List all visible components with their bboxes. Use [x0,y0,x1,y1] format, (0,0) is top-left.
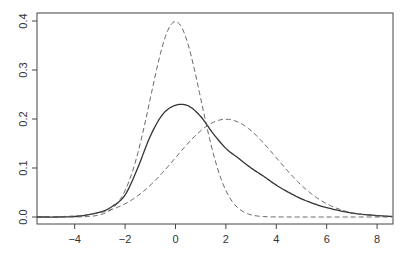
x-tick-label: −4 [68,233,81,245]
y-tick-label: 0.2 [17,111,29,126]
x-axis: −4−202468 [68,224,380,245]
curve-dashed-normal-1 [37,22,392,217]
y-tick-label: 0.3 [17,62,29,77]
plot-area [37,22,392,218]
x-tick-label: −2 [119,233,132,245]
curve-solid-density [37,104,392,217]
density-plot: −4−202468 0.00.10.20.30.4 [0,0,413,254]
x-tick-label: 6 [324,233,330,245]
x-tick-label: 8 [374,233,380,245]
y-axis: 0.00.10.20.30.4 [17,13,37,224]
y-tick-label: 0.0 [17,209,29,224]
x-tick-label: 2 [223,233,229,245]
x-tick-label: 4 [273,233,279,245]
y-tick-label: 0.1 [17,160,29,175]
y-tick-label: 0.4 [17,13,29,28]
x-tick-label: 0 [172,233,178,245]
plot-frame [37,13,393,224]
curve-dashed-normal-2 [37,119,392,217]
